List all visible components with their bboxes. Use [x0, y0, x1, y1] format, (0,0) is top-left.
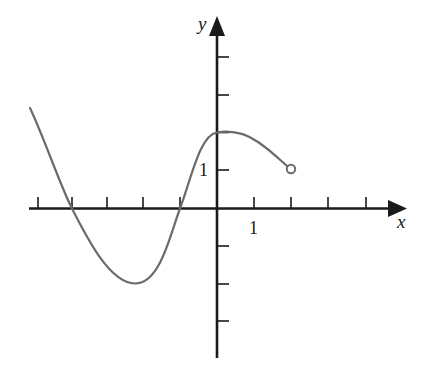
y-tick-label-1: 1 [199, 160, 208, 180]
y-axis-arrow-icon [209, 16, 225, 36]
x-tick-label-1: 1 [249, 218, 258, 238]
y-axis: y 1 [196, 13, 229, 358]
x-axis-ticks [38, 197, 366, 208]
y-axis-ticks [217, 57, 229, 321]
open-endpoint-marker [287, 165, 295, 173]
function-curve [30, 108, 287, 284]
function-graph: x 1 y 1 [0, 0, 421, 381]
y-axis-label: y [196, 13, 207, 34]
x-axis-label: x [396, 211, 406, 232]
